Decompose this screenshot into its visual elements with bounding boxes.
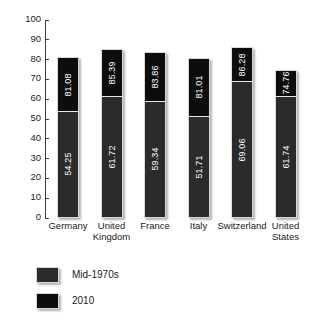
bar-group: 83.8659.34 (144, 52, 166, 218)
bar-segment-2010: 81.01 (188, 58, 210, 116)
bar-stack: 81.0151.71 (188, 58, 210, 218)
x-axis-label: United States (261, 220, 311, 242)
bar-segment-mid-1970s: 59.34 (144, 101, 166, 218)
bar-group: 86.2869.06 (231, 47, 253, 218)
bar-value-label: 61.72 (107, 145, 116, 168)
bar-stack: 81.0854.25 (57, 57, 79, 218)
bar-group: 74.7661.74 (275, 70, 297, 218)
bar-value-label: 74.76 (281, 72, 290, 95)
bar-stack: 86.2869.06 (231, 47, 253, 218)
bar-value-label: 81.01 (194, 76, 203, 99)
bar-value-label: 59.34 (151, 148, 160, 171)
bar-stack: 83.8659.34 (144, 52, 166, 218)
chart-legend: Mid-1970s 2010 (36, 262, 236, 314)
bar-segment-2010: 83.86 (144, 52, 166, 101)
bar-value-label: 83.86 (151, 65, 160, 88)
bar-stack: 85.3961.72 (101, 49, 123, 218)
bar-value-label: 85.39 (107, 61, 116, 84)
bar-chart: 0102030405060708090100 81.0854.2585.3961… (0, 0, 321, 326)
bar-value-label: 61.74 (281, 145, 290, 168)
legend-swatch-mid-1970s (36, 267, 59, 283)
x-axis-label: Switzerland (217, 220, 267, 231)
bar-value-label: 54.25 (64, 153, 73, 176)
bar-group: 81.0151.71 (188, 58, 210, 218)
legend-label-2010: 2010 (72, 295, 94, 307)
bar-value-label: 51.71 (194, 155, 203, 178)
legend-item: Mid-1970s (36, 262, 236, 288)
legend-swatch-2010 (36, 293, 59, 309)
plot-area: 0102030405060708090100 81.0854.2585.3961… (0, 0, 321, 240)
bar-value-label: 69.06 (238, 138, 247, 161)
bar-segment-mid-1970s: 69.06 (231, 81, 253, 218)
x-axis-label: France (130, 220, 180, 231)
legend-label-mid-1970s: Mid-1970s (72, 269, 119, 281)
bar-segment-2010: 74.76 (275, 70, 297, 96)
bar-group: 85.3961.72 (101, 49, 123, 218)
bar-stack: 74.7661.74 (275, 70, 297, 218)
bar-segment-2010: 86.28 (231, 47, 253, 81)
x-axis-label: Germany (43, 220, 93, 231)
x-axis-label: United Kingdom (87, 220, 137, 242)
bar-group: 81.0854.25 (57, 57, 79, 218)
x-axis-label: Italy (174, 220, 224, 231)
bar-segment-mid-1970s: 61.74 (275, 96, 297, 218)
bar-segment-2010: 81.08 (57, 57, 79, 110)
bar-segment-mid-1970s: 54.25 (57, 111, 79, 218)
bar-value-label: 81.08 (64, 73, 73, 96)
legend-item: 2010 (36, 288, 236, 314)
bars-layer: 81.0854.2585.3961.7283.8659.3481.0151.71… (0, 0, 321, 240)
bar-value-label: 86.28 (238, 53, 247, 76)
bar-segment-mid-1970s: 61.72 (101, 96, 123, 218)
bar-segment-mid-1970s: 51.71 (188, 116, 210, 218)
bar-segment-2010: 85.39 (101, 49, 123, 96)
